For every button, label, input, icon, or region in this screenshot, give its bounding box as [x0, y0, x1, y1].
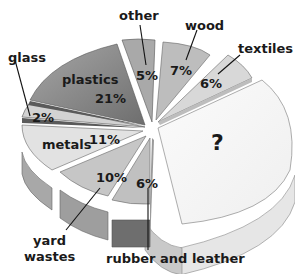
label-unknown: ? — [211, 130, 224, 155]
label-yard-line2: wastes — [24, 249, 76, 264]
label-textiles: textiles — [238, 41, 293, 56]
pie-chart: other 5% wood 7% textiles 6% ? 6% rubber… — [0, 0, 295, 274]
label-glass: glass — [8, 50, 46, 65]
label-plastics: plastics — [62, 72, 119, 87]
label-plastics-pct: 21% — [95, 91, 126, 106]
label-yard-pct: 10% — [96, 170, 127, 185]
label-wood-pct: 7% — [170, 63, 192, 78]
label-metals: metals — [42, 137, 92, 152]
label-metals-pct: 11% — [89, 132, 120, 147]
label-wood: wood — [185, 18, 224, 33]
label-textiles-pct: 6% — [200, 76, 222, 91]
label-yard-line1: yard — [33, 233, 66, 248]
label-other-pct: 5% — [136, 68, 158, 83]
label-rubber: rubber and leather — [106, 251, 245, 266]
label-other: other — [119, 8, 159, 23]
slice-unknown — [158, 80, 292, 224]
label-rubber-pct: 6% — [136, 176, 158, 191]
label-glass-pct: 2% — [32, 110, 54, 125]
